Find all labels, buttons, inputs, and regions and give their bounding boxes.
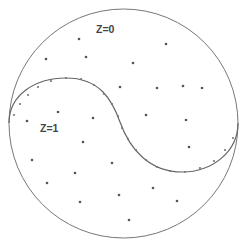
sample-point	[118, 194, 121, 197]
sample-point	[201, 87, 204, 90]
boundary-marker	[93, 84, 95, 86]
sample-point	[132, 62, 135, 65]
region-label-z1: Z=1	[40, 122, 59, 134]
sample-point	[92, 117, 95, 120]
sample-point	[111, 162, 114, 165]
sample-point	[78, 38, 81, 41]
sample-point	[79, 201, 82, 204]
sample-point	[152, 187, 155, 190]
boundary-marker	[127, 138, 129, 140]
boundary-marker	[103, 93, 105, 95]
boundary-marker	[111, 103, 113, 105]
sample-point	[156, 87, 159, 90]
sample-point	[145, 114, 148, 117]
sample-point	[182, 85, 185, 88]
sample-point	[176, 200, 179, 203]
sample-point	[185, 119, 188, 122]
sample-point	[74, 172, 77, 175]
boundary-marker	[156, 166, 158, 168]
boundary-marker	[117, 115, 119, 117]
sample-point	[165, 43, 168, 46]
boundary-marker	[19, 103, 21, 105]
sample-point	[85, 56, 88, 59]
boundary-marker	[184, 171, 186, 173]
sample-point	[26, 120, 29, 123]
boundary-marker	[169, 170, 171, 172]
boundary-marker	[199, 167, 201, 169]
boundary-marker	[80, 78, 82, 80]
boundary-marker	[37, 86, 39, 88]
boundary-marker	[145, 159, 147, 161]
region-diagram: Z=0 Z=1	[0, 0, 247, 246]
sample-point	[46, 182, 49, 185]
boundary-marker	[232, 137, 234, 139]
boundary-marker	[135, 149, 137, 151]
sample-point	[45, 58, 48, 61]
boundary-marker	[13, 114, 15, 116]
sample-point	[188, 146, 191, 149]
boundary-marker	[224, 149, 226, 151]
boundary-marker	[50, 80, 52, 82]
sample-point	[31, 159, 34, 162]
region-label-z0: Z=0	[96, 23, 115, 35]
boundary-marker	[121, 127, 123, 129]
boundary-marker	[213, 160, 215, 162]
boundary-marker	[65, 77, 67, 79]
boundary-marker	[27, 94, 29, 96]
sample-point	[82, 141, 85, 144]
sample-point	[57, 111, 60, 114]
sample-point	[128, 219, 131, 222]
sample-point	[119, 86, 122, 89]
